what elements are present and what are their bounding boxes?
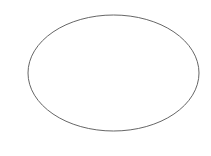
- ellipse-shape: [28, 15, 199, 131]
- diagram-svg: [0, 0, 211, 156]
- diagram-canvas: [0, 0, 211, 156]
